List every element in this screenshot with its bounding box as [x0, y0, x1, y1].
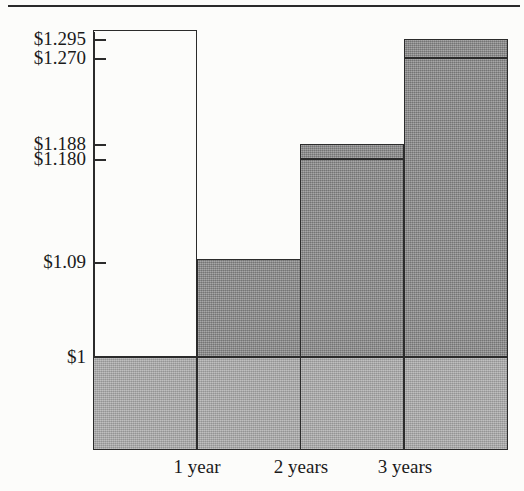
bar-year-0 [93, 30, 197, 450]
x-axis-label-1-year: 1 year [145, 457, 249, 477]
bar-year-3-principal [404, 357, 508, 450]
x-axis-label-2-years: 2 years [249, 457, 353, 477]
bar-year-1 [197, 30, 301, 450]
bar-year-1-principal [197, 357, 301, 450]
y-axis-label-109: $1.09 [0, 252, 86, 271]
bar-year-2 [300, 30, 404, 450]
bar-year-3-interest [404, 58, 508, 357]
page-top-rule [8, 5, 520, 7]
bar-chart: $1.295 $1.270 $1.188 $1.180 $1.09 $1 1 [0, 0, 524, 491]
bar-year-3 [404, 30, 508, 450]
bar-series-group [93, 30, 508, 450]
y-axis-label-1: $1 [0, 347, 86, 366]
bar-year-2-principal [300, 357, 404, 450]
bar-year-0-empty [93, 30, 197, 357]
bar-year-1-interest [197, 259, 301, 357]
x-axis-label-3-years: 3 years [353, 457, 457, 477]
y-axis-label-1295: $1.295 [0, 29, 86, 48]
bar-year-0-principal [93, 357, 197, 450]
y-axis-label-1180: $1.180 [0, 149, 86, 168]
bar-year-3-cap [404, 39, 508, 58]
bar-year-2-interest [300, 159, 404, 357]
bar-year-2-cap [300, 144, 404, 159]
y-axis-label-1270: $1.270 [0, 48, 86, 67]
